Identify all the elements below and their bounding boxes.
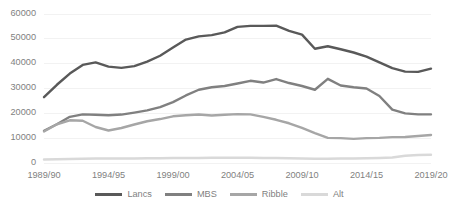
legend-swatch-lancs <box>95 193 122 196</box>
gridlines <box>44 14 431 163</box>
x-axis-tick-label: 2009/10 <box>272 170 332 180</box>
legend-item-lancs[interactable]: Lancs <box>95 190 152 199</box>
chart-legend: LancsMBSRibbleAlt <box>0 190 439 199</box>
legend-swatch-alt <box>301 193 328 196</box>
y-axis-tick-label: 20000 <box>0 107 36 117</box>
x-axis-tick-label: 2014/15 <box>337 170 397 180</box>
legend-label: Alt <box>333 190 344 199</box>
series-line-alt <box>44 155 431 160</box>
x-axis-tick-label: 2019/20 <box>401 170 452 180</box>
y-axis-tick-label: 60000 <box>0 8 36 18</box>
legend-item-alt[interactable]: Alt <box>301 190 344 199</box>
legend-item-ribble[interactable]: Ribble <box>230 190 288 199</box>
y-axis-tick-label: 30000 <box>0 82 36 92</box>
y-axis-tick-label: 50000 <box>0 32 36 42</box>
series-line-mbs <box>44 79 431 131</box>
y-axis-tick-label: 40000 <box>0 57 36 67</box>
legend-label: MBS <box>197 190 217 199</box>
legend-item-mbs[interactable]: MBS <box>165 190 217 199</box>
legend-label: Lancs <box>127 190 152 199</box>
legend-swatch-mbs <box>165 193 192 196</box>
series-line-ribble <box>44 114 431 139</box>
x-axis-tick-label: 1999/00 <box>143 170 203 180</box>
y-axis-tick-label: 10000 <box>0 132 36 142</box>
series-line-lancs <box>44 26 431 98</box>
legend-swatch-ribble <box>230 193 257 196</box>
x-axis-tick-label: 1989/90 <box>14 170 74 180</box>
y-axis-tick-label: 0 <box>0 157 36 167</box>
series-lines <box>44 26 431 160</box>
x-axis-tick-label: 1994/95 <box>79 170 139 180</box>
legend-label: Ribble <box>262 190 288 199</box>
x-axis-tick-label: 2004/05 <box>208 170 268 180</box>
